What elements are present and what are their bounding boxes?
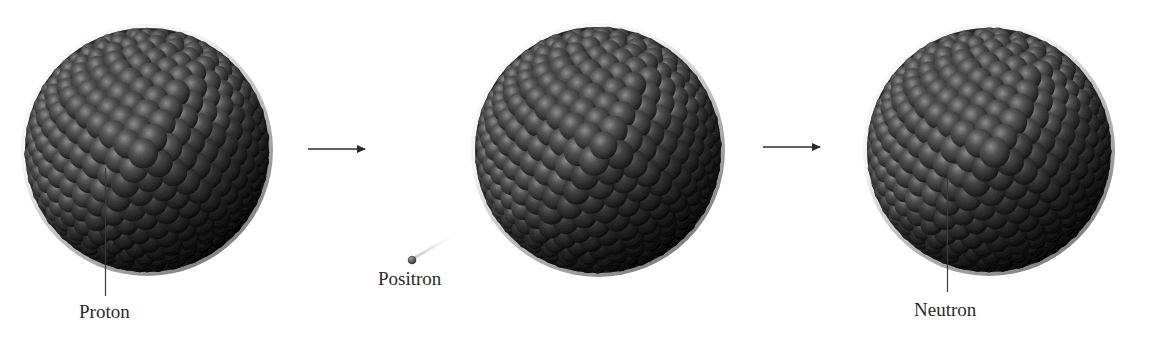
positron <box>408 234 456 264</box>
nucleus-before <box>21 24 273 276</box>
positron-label: Positron <box>378 269 441 288</box>
diagram-canvas <box>0 0 1149 337</box>
positron-emission-diagram: Proton Positron Neutron <box>0 0 1149 337</box>
neutron-label: Neutron <box>914 300 976 319</box>
nucleus-after <box>863 24 1115 276</box>
proton-label: Proton <box>79 302 130 321</box>
positron-trail <box>414 234 456 258</box>
positron-particle-icon <box>408 256 417 265</box>
nucleus-middle <box>471 23 725 277</box>
